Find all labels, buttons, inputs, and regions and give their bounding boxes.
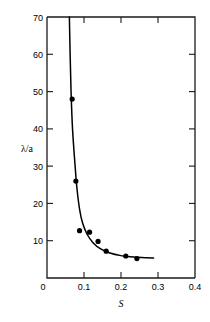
y-tick-label-20: 20 — [33, 199, 43, 209]
right-axis-ticks — [189, 54, 195, 240]
figure-container: 70 60 50 40 30 20 10 0 0.1 0.2 0.3 0.4 λ… — [0, 0, 210, 322]
axis-frame — [47, 17, 195, 278]
data-point — [77, 228, 82, 233]
x-tick-label-0.4: 0.4 — [189, 282, 202, 292]
x-tick-label-0: 0 — [40, 282, 45, 292]
x-axis-title: S — [119, 298, 124, 309]
y-tick-labels: 70 60 50 40 30 20 10 — [33, 13, 43, 247]
x-tick-label-0.2: 0.2 — [115, 282, 128, 292]
y-tick-label-50: 50 — [33, 87, 43, 97]
data-point-markers — [70, 96, 140, 261]
fitted-curve — [69, 17, 153, 258]
x-axis-ticks — [84, 272, 158, 278]
axis-top-right — [47, 17, 195, 278]
chart-plot: 70 60 50 40 30 20 10 0 0.1 0.2 0.3 0.4 λ… — [0, 0, 210, 322]
data-point — [73, 178, 78, 183]
y-tick-label-40: 40 — [33, 124, 43, 134]
data-point — [104, 249, 109, 254]
y-tick-label-60: 60 — [33, 50, 43, 60]
x-tick-label-0.3: 0.3 — [152, 282, 165, 292]
y-tick-label-10: 10 — [33, 236, 43, 246]
y-tick-label-70: 70 — [33, 13, 43, 23]
y-axis-title: λ/a — [21, 143, 34, 154]
top-axis-ticks — [84, 17, 158, 23]
data-point — [123, 253, 128, 258]
y-tick-label-30: 30 — [33, 162, 43, 172]
data-point — [95, 239, 100, 244]
y-axis-ticks — [47, 54, 53, 240]
data-point — [87, 230, 92, 235]
data-point — [70, 96, 75, 101]
data-point — [134, 256, 139, 261]
x-tick-labels: 0 0.1 0.2 0.3 0.4 — [40, 282, 201, 292]
x-tick-label-0.1: 0.1 — [78, 282, 91, 292]
axis-left-bottom — [47, 17, 195, 278]
